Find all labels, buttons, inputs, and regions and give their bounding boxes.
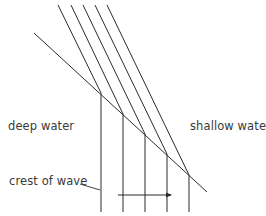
wave-crest-slanted-3 [83,5,145,134]
wave-crest-slanted-5 [107,5,189,175]
wave-crest-slanted-4 [95,5,167,154]
wave-crest-slanted-1 [58,5,101,93]
shallow-water-label: shallow water [190,121,266,133]
deep-water-label: deep water [8,121,74,133]
crest-of-wave-label: crest of wave [9,176,87,188]
